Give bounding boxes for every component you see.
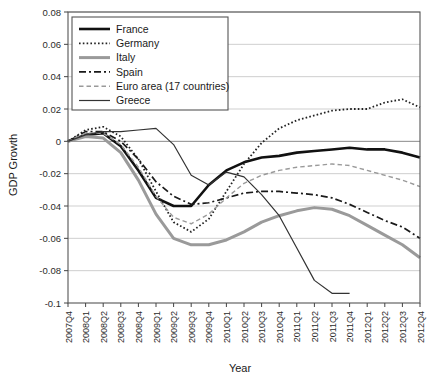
x-tick-label: 2009Q2 [169, 311, 179, 343]
y-tick-labels: 0.080.060.040.020-0.02-0.04-0.06-0.08-0.… [39, 7, 61, 309]
x-tick-label: 2010Q2 [240, 311, 250, 343]
x-tick-label: 2008Q4 [134, 311, 144, 343]
x-tick-label: 2009Q3 [187, 311, 197, 343]
y-axis-title: GDP Growth [7, 134, 19, 196]
y-tick-label: -0.04 [39, 201, 61, 212]
x-tick-label: 2007Q4 [64, 311, 74, 343]
legend-label-germany: Germany [116, 37, 160, 49]
data-series-layer [68, 99, 420, 293]
x-tick-label: 2010Q4 [275, 311, 285, 343]
y-tick-label: 0 [56, 136, 61, 147]
x-tick-label: 2011Q2 [310, 311, 320, 342]
y-tick-label: -0.1 [45, 298, 61, 309]
y-tick-label: 0.04 [43, 71, 62, 82]
legend-label-spain: Spain [116, 66, 143, 78]
x-tick-label: 2008Q3 [116, 311, 126, 343]
x-tick-label: 2009Q1 [152, 311, 162, 343]
x-axis-title: Year [229, 362, 252, 374]
chart-canvas: 0.080.060.040.020-0.02-0.04-0.06-0.08-0.… [0, 0, 434, 383]
legend-label-france: France [116, 23, 149, 35]
y-tick-label: 0.02 [43, 104, 62, 115]
y-tick-label: -0.02 [39, 168, 61, 179]
legend-label-euro-area-17-countries: Euro area (17 countries) [116, 80, 229, 92]
x-tick-label: 2009Q4 [204, 311, 214, 343]
x-tick-label: 2012Q1 [363, 311, 373, 343]
y-tick-label: 0.06 [43, 39, 62, 50]
series-line-greece [68, 128, 350, 293]
y-tick-label: -0.08 [39, 265, 61, 276]
y-tick-label: -0.06 [39, 233, 61, 244]
series-line-italy [68, 136, 420, 257]
x-tick-label: 2012Q3 [398, 311, 408, 343]
x-tick-label: 2011Q3 [328, 311, 338, 342]
x-tick-label: 2008Q1 [81, 311, 91, 343]
x-tick-label: 2012Q4 [416, 311, 426, 343]
x-tick-label: 2011Q4 [345, 311, 355, 342]
gdp-growth-chart: 0.080.060.040.020-0.02-0.04-0.06-0.08-0.… [0, 0, 434, 383]
x-tick-label: 2011Q1 [292, 311, 302, 342]
y-tick-label: 0.08 [43, 7, 62, 18]
x-tick-label: 2008Q2 [99, 311, 109, 343]
legend-label-italy: Italy [116, 51, 136, 63]
legend-label-greece: Greece [116, 94, 151, 106]
legend: FranceGermanyItalySpainEuro area (17 cou… [72, 17, 229, 110]
x-tick-labels: 2007Q42008Q12008Q22008Q32008Q42009Q12009… [64, 311, 426, 343]
x-tick-label: 2010Q1 [222, 311, 232, 343]
x-tick-label: 2010Q3 [257, 311, 267, 343]
x-tick-label: 2012Q2 [380, 311, 390, 343]
series-line-france [68, 133, 420, 206]
